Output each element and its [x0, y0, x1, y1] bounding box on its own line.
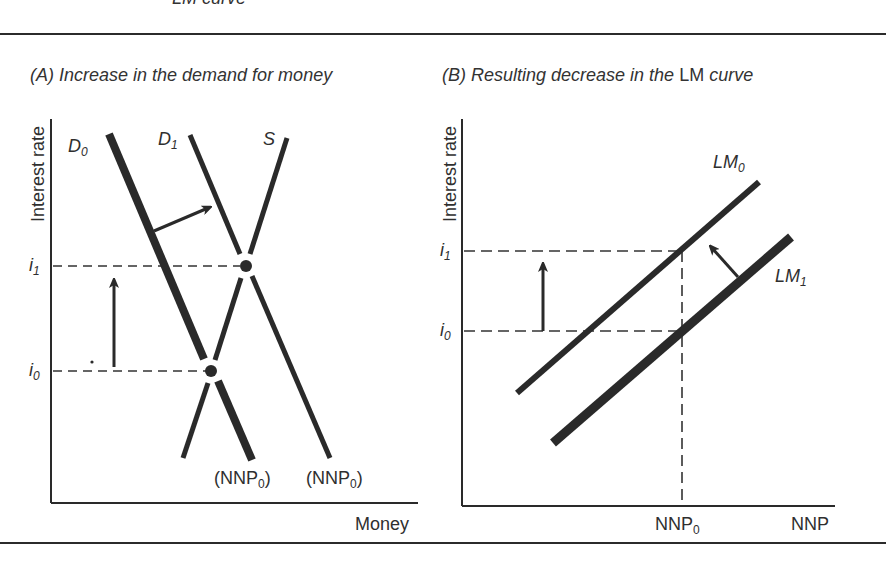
- panel-a-i1-label: i1: [29, 255, 40, 278]
- panel-b-i0-label: i0: [440, 320, 451, 343]
- panel-a-y-axis-label: Interest rate: [28, 126, 49, 222]
- panel-a-x-axis-label: Money: [355, 514, 409, 535]
- lm1-curve: [553, 237, 791, 443]
- panel-a-chart: [51, 119, 418, 503]
- equilibrium-dot-i0: [205, 365, 217, 377]
- s-curve-bottom: [183, 383, 208, 458]
- lm0-label: LM0: [713, 152, 745, 175]
- s-curve-mid: [215, 278, 241, 360]
- panel-a-i0-label: i0: [29, 360, 40, 383]
- s-curve-top: [250, 138, 287, 254]
- panel-b-i1-label: i1: [440, 240, 451, 263]
- nnp0-label-d1: (NNP0): [306, 468, 363, 491]
- d1-curve-upper: [190, 135, 240, 254]
- stray-dot: [90, 360, 93, 363]
- d1-label: D1: [158, 129, 178, 152]
- d0-label: D0: [68, 136, 88, 159]
- panel-b-chart: [462, 119, 835, 506]
- panel-b-y-axis-label: Interest rate: [440, 126, 461, 222]
- s-label: S: [263, 129, 275, 150]
- equilibrium-dot-i1: [240, 260, 252, 272]
- lm-shift-arrow: [712, 248, 738, 277]
- nnp0-label-d0: (NNP0): [214, 468, 271, 491]
- diagram-graphics: [0, 0, 886, 563]
- d0-curve-lower: [218, 381, 252, 460]
- lm1-label: LM1: [775, 266, 807, 289]
- d0-curve-upper: [109, 134, 204, 359]
- lm0-curve: [517, 182, 759, 393]
- d1-curve-lower: [252, 276, 330, 458]
- shift-right-arrow: [154, 208, 208, 231]
- panel-b-x-axis-label: NNP: [791, 514, 829, 535]
- panel-b-nnp0-label: NNP0: [655, 514, 700, 537]
